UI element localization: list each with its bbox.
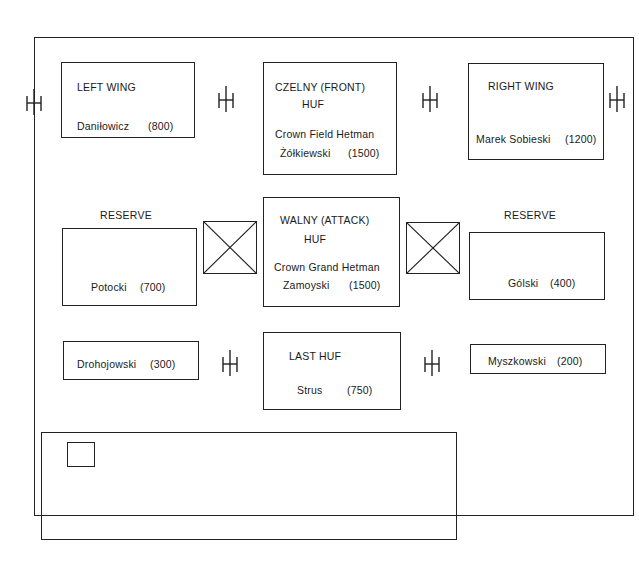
attack-huf-commander: Zamoyski <box>283 279 330 291</box>
artillery-icon <box>220 348 240 378</box>
last-huf-title: LAST HUF <box>289 350 341 362</box>
right-reserve-commander: Gólski <box>508 277 538 289</box>
left-reserve-commander: Potocki <box>91 281 127 293</box>
right-wing-title: RIGHT WING <box>488 80 554 92</box>
right-reserve-label: RESERVE <box>504 209 556 221</box>
left-wing-unit: LEFT WING Daniłowicz (800) <box>61 62 195 138</box>
left-wing-strength: (800) <box>148 120 174 132</box>
left-reserve-label: RESERVE <box>100 209 152 221</box>
front-huf-unit: CZELNY (FRONT) HUF Crown Field Hetman Żó… <box>263 62 397 175</box>
infantry-icon <box>203 221 257 274</box>
left-rear-unit: Drohojowski (300) <box>63 341 199 380</box>
right-reserve-unit: Gólski (400) <box>469 232 605 300</box>
right-reserve-strength: (400) <box>550 277 576 289</box>
right-rear-unit: Myszkowski (200) <box>470 344 606 374</box>
artillery-icon <box>422 348 442 378</box>
attack-huf-rank: Crown Grand Hetman <box>274 261 380 273</box>
attack-huf-strength: (1500) <box>349 279 381 291</box>
artillery-icon <box>607 84 627 114</box>
right-wing-strength: (1200) <box>565 133 597 145</box>
cavalry-legend-icon <box>67 442 95 467</box>
left-wing-title: LEFT WING <box>77 81 136 93</box>
right-rear-commander: Myszkowski <box>488 355 546 367</box>
legend <box>41 432 457 540</box>
attack-huf-unit: WALNY (ATTACK) HUF Crown Grand Hetman Za… <box>263 197 400 307</box>
artillery-icon <box>216 84 236 114</box>
artillery-icon <box>24 87 44 117</box>
attack-huf-subtitle: HUF <box>304 233 326 245</box>
front-huf-commander: Żółkiewski <box>280 147 330 159</box>
right-wing-unit: RIGHT WING Marek Sobieski (1200) <box>468 63 604 160</box>
last-huf-strength: (750) <box>347 384 373 396</box>
left-reserve-strength: (700) <box>140 281 166 293</box>
front-huf-strength: (1500) <box>348 147 380 159</box>
front-huf-rank: Crown Field Hetman <box>275 128 374 140</box>
infantry-icon <box>406 222 460 274</box>
left-rear-commander: Drohojowski <box>77 358 136 370</box>
front-huf-title: CZELNY (FRONT) <box>275 81 365 93</box>
left-wing-commander: Daniłowicz <box>77 120 129 132</box>
right-rear-strength: (200) <box>557 355 583 367</box>
artillery-icon <box>420 84 440 114</box>
last-huf-commander: Strus <box>297 384 323 396</box>
right-wing-commander: Marek Sobieski <box>476 133 551 145</box>
last-huf-unit: LAST HUF Strus (750) <box>263 332 401 410</box>
left-reserve-unit: Potocki (700) <box>62 228 197 306</box>
front-huf-subtitle: HUF <box>302 98 324 110</box>
left-rear-strength: (300) <box>150 358 176 370</box>
attack-huf-title: WALNY (ATTACK) <box>280 214 369 226</box>
